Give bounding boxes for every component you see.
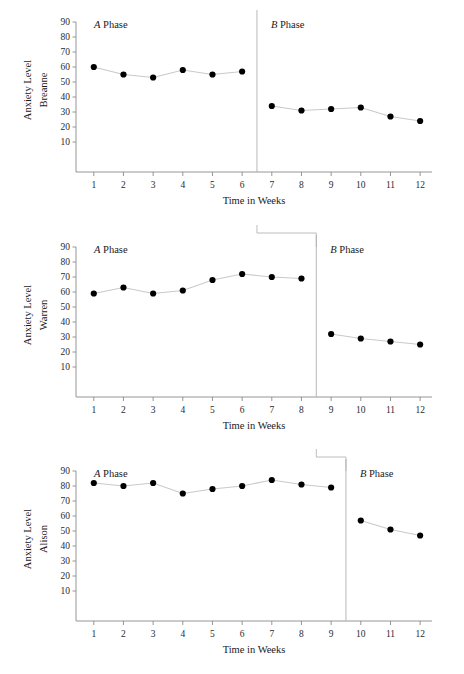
y-tick-label: 10 xyxy=(61,586,71,596)
multiple-baseline-chart: 908070605040302010123456789101112A Phase… xyxy=(0,0,464,674)
x-tick-label: 3 xyxy=(151,180,156,190)
x-tick-label: 2 xyxy=(121,629,126,639)
x-tick-label: 1 xyxy=(91,405,96,415)
y-tick-label: 70 xyxy=(61,272,71,282)
x-axis-ticks: 123456789101112 xyxy=(91,172,425,190)
x-tick-label: 8 xyxy=(299,405,304,415)
phase-b-label: B Phase xyxy=(360,468,394,479)
series-b-phase: Week 7: 34Week 8: 31Week 9: 32Week 10: 3… xyxy=(269,103,424,124)
data-point: Week 12: 25 xyxy=(417,341,423,347)
series-line xyxy=(272,106,420,121)
x-tick-label: 9 xyxy=(329,405,334,415)
x-tick-label: 6 xyxy=(240,629,245,639)
data-point: Week 12: 24 xyxy=(417,118,423,124)
x-tick-label: 3 xyxy=(151,629,156,639)
series-line xyxy=(94,67,242,78)
x-axis-ticks: 123456789101112 xyxy=(91,621,425,639)
x-tick-label: 12 xyxy=(415,180,425,190)
y-tick-label: 60 xyxy=(61,287,71,297)
data-point: Week 11: 27 xyxy=(387,338,393,344)
y-tick-label: 70 xyxy=(61,496,71,506)
x-tick-label: 10 xyxy=(356,629,366,639)
data-point: Week 4: 75 xyxy=(180,490,186,496)
phase-a-label: A Phase xyxy=(93,19,128,30)
y-tick-label: 70 xyxy=(61,47,71,57)
x-tick-label: 8 xyxy=(299,629,304,639)
x-tick-label: 4 xyxy=(180,629,185,639)
y-tick-label: 90 xyxy=(61,466,71,476)
y-axis-subject-label: Alison xyxy=(38,524,49,553)
axes xyxy=(76,247,432,397)
data-point: Week 1: 60 xyxy=(91,64,97,70)
x-tick-label: 7 xyxy=(269,405,274,415)
x-tick-label: 1 xyxy=(91,629,96,639)
data-point: Week 3: 82 xyxy=(150,480,156,486)
phase-b-label: B Phase xyxy=(330,244,364,255)
data-point: Week 9: 79 xyxy=(328,484,334,490)
y-tick-label: 40 xyxy=(61,541,71,551)
data-point: Week 8: 81 xyxy=(298,481,304,487)
phase-a-label: A Phase xyxy=(93,244,128,255)
y-tick-label: 80 xyxy=(61,257,71,267)
data-point: Week 1: 59 xyxy=(91,290,97,296)
data-point: Week 10: 57 xyxy=(358,517,364,523)
y-tick-label: 20 xyxy=(61,347,71,357)
data-point: Week 6: 72 xyxy=(239,271,245,277)
panel-alison: 908070605040302010123456789101112A Phase… xyxy=(0,449,464,674)
x-tick-label: 5 xyxy=(210,405,215,415)
plot-area-alison: 908070605040302010123456789101112A Phase… xyxy=(0,449,464,674)
x-tick-label: 7 xyxy=(269,629,274,639)
data-point: Week 12: 47 xyxy=(417,532,423,538)
x-tick-label: 7 xyxy=(269,180,274,190)
y-tick-label: 20 xyxy=(61,571,71,581)
x-tick-label: 1 xyxy=(91,180,96,190)
axes xyxy=(76,471,432,621)
y-tick-label: 90 xyxy=(61,242,71,252)
data-point: Week 11: 51 xyxy=(387,526,393,532)
series-b-phase: Week 10: 57Week 11: 51Week 12: 47 xyxy=(358,517,424,538)
phase-a-label: A Phase xyxy=(93,468,128,479)
data-point: Week 5: 55 xyxy=(209,71,215,77)
data-point: Week 9: 32 xyxy=(328,106,334,112)
y-axis-title: Anxiety Level xyxy=(22,60,33,120)
x-tick-label: 6 xyxy=(240,180,245,190)
y-tick-label: 80 xyxy=(61,481,71,491)
y-tick-label: 50 xyxy=(61,77,71,87)
axes xyxy=(76,22,432,172)
data-point: Week 7: 70 xyxy=(269,274,275,280)
x-tick-label: 11 xyxy=(386,629,395,639)
series-line xyxy=(331,334,420,345)
x-tick-label: 5 xyxy=(210,629,215,639)
x-tick-label: 12 xyxy=(415,629,425,639)
data-point: Week 2: 80 xyxy=(120,483,126,489)
y-tick-label: 30 xyxy=(61,556,71,566)
data-point: Week 1: 82 xyxy=(91,480,97,486)
y-tick-label: 30 xyxy=(61,332,71,342)
x-tick-label: 2 xyxy=(121,180,126,190)
series-a-phase: Week 1: 82Week 2: 80Week 3: 82Week 4: 75… xyxy=(91,477,335,497)
x-tick-label: 9 xyxy=(329,180,334,190)
x-tick-label: 6 xyxy=(240,405,245,415)
data-point: Week 8: 69 xyxy=(298,275,304,281)
phase-connector xyxy=(316,449,346,471)
data-point: Week 11: 27 xyxy=(387,113,393,119)
data-point: Week 5: 68 xyxy=(209,277,215,283)
y-tick-label: 20 xyxy=(61,122,71,132)
plot-area-breanne: 908070605040302010123456789101112A Phase… xyxy=(0,0,464,225)
x-tick-label: 9 xyxy=(329,629,334,639)
y-tick-label: 30 xyxy=(61,107,71,117)
data-point: Week 7: 84 xyxy=(269,477,275,483)
x-tick-label: 5 xyxy=(210,180,215,190)
data-point: Week 9: 32 xyxy=(328,331,334,337)
y-axis-ticks: 908070605040302010 xyxy=(61,242,77,372)
x-tick-label: 10 xyxy=(356,180,366,190)
x-axis-title: Time in Weeks xyxy=(223,195,286,206)
y-tick-label: 60 xyxy=(61,511,71,521)
y-tick-label: 90 xyxy=(61,17,71,27)
y-tick-label: 50 xyxy=(61,302,71,312)
y-axis-subject-label: Warren xyxy=(38,299,49,330)
data-point: Week 3: 53 xyxy=(150,74,156,80)
y-tick-label: 10 xyxy=(61,137,71,147)
x-axis-title: Time in Weeks xyxy=(223,420,286,431)
phase-connector xyxy=(257,225,316,247)
